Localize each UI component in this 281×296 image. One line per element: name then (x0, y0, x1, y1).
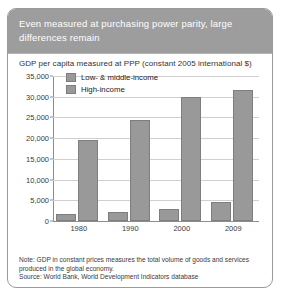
y-axis-tick-label: 30,000 (26, 92, 49, 101)
figure-header: Even measured at purchasing power parity… (8, 9, 272, 53)
x-axis-line (53, 221, 259, 222)
bar-high-income (130, 120, 150, 222)
plot-area: 05,00010,00015,00020,00025,00030,00035,0… (53, 76, 259, 222)
y-axis-tick-label: 25,000 (26, 113, 49, 122)
legend-item: High-income (66, 85, 158, 94)
bar-high-income (181, 97, 201, 221)
bar-group: 2009 (208, 76, 260, 221)
chart-legend: Low- & middle-incomeHigh-income (66, 73, 158, 97)
figure-container: Even measured at purchasing power parity… (7, 8, 273, 288)
x-axis-tick-label: 2009 (208, 224, 260, 233)
legend-swatch-icon (66, 73, 76, 82)
bar-low-middle-income (211, 202, 231, 221)
chart-title: GDP per capita measured at PPP (constant… (19, 59, 252, 68)
bar-low-middle-income (108, 212, 128, 221)
footnote-source: Source: World Bank, World Development In… (19, 273, 263, 282)
legend-label: High-income (81, 85, 125, 94)
y-axis-tick-label: 5,000 (30, 196, 49, 205)
bar-group: 2000 (156, 76, 208, 221)
y-axis-tick-label: 15,000 (26, 154, 49, 163)
legend-label: Low- & middle-income (81, 73, 158, 82)
bar-low-middle-income (56, 214, 76, 221)
x-axis-tick-label: 2000 (156, 224, 208, 233)
legend-swatch-icon (66, 85, 76, 94)
y-axis-tick-label: 0 (45, 217, 49, 226)
x-axis-tick-label: 1980 (53, 224, 105, 233)
x-axis-tick-label: 1990 (105, 224, 157, 233)
bar-high-income (78, 140, 98, 221)
chart-panel: GDP per capita measured at PPP (constant… (8, 53, 272, 243)
figure-footnote: Note: GDP in constant prices measures th… (19, 256, 263, 282)
bar-group: 1980 (53, 76, 105, 221)
y-axis-tick-label: 20,000 (26, 134, 49, 143)
y-axis-tick-label: 10,000 (26, 175, 49, 184)
bar-low-middle-income (159, 209, 179, 221)
figure-header-title: Even measured at purchasing power parity… (19, 18, 232, 43)
bar-high-income (233, 90, 253, 221)
legend-item: Low- & middle-income (66, 73, 158, 82)
bar-group: 1990 (105, 76, 157, 221)
y-axis-tick-label: 35,000 (26, 72, 49, 81)
footnote-note: Note: GDP in constant prices measures th… (19, 256, 263, 273)
